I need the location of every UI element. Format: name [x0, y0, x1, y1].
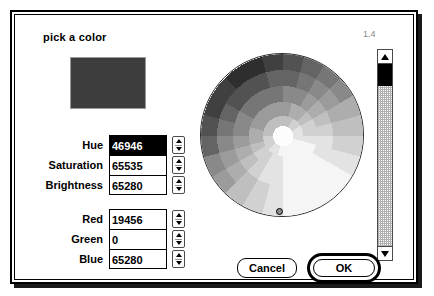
cancel-button[interactable]: Cancel — [237, 258, 297, 278]
stepper-down-arrow-icon[interactable] — [176, 261, 182, 265]
scrollbar-track[interactable] — [378, 64, 392, 246]
label-saturation: Saturation — [15, 155, 103, 175]
stepper-divider — [175, 145, 182, 146]
stepper-down-arrow-icon[interactable] — [176, 147, 182, 151]
brightness-value: 65280 — [112, 179, 164, 193]
gamma-value-label: 1.4 — [363, 29, 376, 39]
dialog-inner-frame: pick a color Hue Saturation Brightness 4… — [14, 14, 414, 280]
saturation-field[interactable]: 65535 — [110, 156, 166, 176]
scrollbar-thumb[interactable] — [378, 64, 392, 86]
window-drop-shadow-right — [418, 14, 422, 288]
saturation-value: 65535 — [112, 159, 164, 173]
red-stepper[interactable] — [172, 210, 185, 228]
stepper-up-arrow-icon[interactable] — [176, 159, 182, 163]
color-wheel-selection-marker[interactable] — [276, 208, 283, 215]
label-red: Red — [15, 209, 103, 229]
label-brightness: Brightness — [15, 175, 103, 195]
rgb-field-group: 19456 0 65280 — [109, 209, 167, 269]
page-title: pick a color — [43, 31, 107, 43]
label-green: Green — [15, 229, 103, 249]
stepper-divider — [175, 219, 182, 220]
screen: pick a color Hue Saturation Brightness 4… — [0, 0, 434, 296]
color-wheel-graphic — [201, 54, 364, 217]
blue-value: 65280 — [112, 253, 164, 267]
green-stepper[interactable] — [172, 230, 185, 248]
stepper-down-arrow-icon[interactable] — [176, 241, 182, 245]
hue-value: 46946 — [112, 139, 164, 153]
color-picker-dialog: pick a color Hue Saturation Brightness 4… — [10, 10, 418, 284]
ok-button[interactable]: OK — [313, 259, 375, 277]
stepper-up-arrow-icon[interactable] — [176, 253, 182, 257]
saturation-stepper[interactable] — [172, 156, 185, 174]
stepper-divider — [175, 165, 182, 166]
hsb-field-group: 46946 65535 65280 — [109, 135, 167, 195]
brightness-scrollbar[interactable] — [377, 49, 393, 261]
stepper-up-arrow-icon[interactable] — [176, 139, 182, 143]
hue-field[interactable]: 46946 — [110, 136, 166, 156]
scroll-up-arrow-icon — [381, 54, 389, 60]
stepper-divider — [175, 239, 182, 240]
color-swatch-preview[interactable] — [70, 57, 146, 109]
blue-field[interactable]: 65280 — [110, 250, 166, 270]
stepper-down-arrow-icon[interactable] — [176, 221, 182, 225]
brightness-stepper[interactable] — [172, 176, 185, 194]
scroll-down-arrow-icon — [381, 251, 389, 257]
green-field[interactable]: 0 — [110, 230, 166, 250]
label-blue: Blue — [15, 249, 103, 269]
window-drop-shadow-bottom — [14, 284, 422, 288]
stepper-up-arrow-icon[interactable] — [176, 213, 182, 217]
stepper-divider — [175, 259, 182, 260]
stepper-up-arrow-icon[interactable] — [176, 179, 182, 183]
hue-stepper[interactable] — [172, 136, 185, 154]
scrollbar-down-button[interactable] — [378, 246, 392, 260]
green-value: 0 — [112, 233, 164, 247]
stepper-up-arrow-icon[interactable] — [176, 233, 182, 237]
scrollbar-up-button[interactable] — [378, 50, 392, 64]
red-value: 19456 — [112, 213, 164, 227]
stepper-down-arrow-icon[interactable] — [176, 187, 182, 191]
color-wheel[interactable] — [200, 53, 364, 217]
brightness-field[interactable]: 65280 — [110, 176, 166, 196]
stepper-down-arrow-icon[interactable] — [176, 167, 182, 171]
stepper-divider — [175, 185, 182, 186]
blue-stepper[interactable] — [172, 250, 185, 268]
color-wheel-container — [200, 53, 364, 217]
red-field[interactable]: 19456 — [110, 210, 166, 230]
label-hue: Hue — [15, 135, 103, 155]
